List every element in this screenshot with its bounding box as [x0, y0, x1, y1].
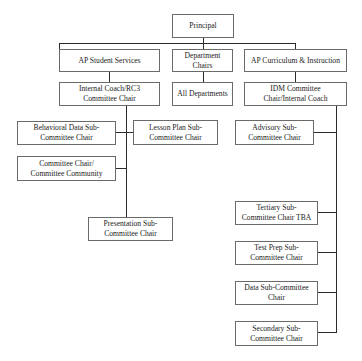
- node-ap-student-services: AP Student Services: [59, 49, 160, 72]
- node-test-prep: Test Prep Sub- Committee Chair: [235, 241, 318, 265]
- node-lesson-plan: Lesson Plan Sub- Committee Chair: [133, 120, 218, 145]
- node-internal-coach: Internal Coach/RC3 Committee Chair: [59, 82, 160, 106]
- connector-left-trunk: [126, 106, 127, 217]
- node-data-sub: Data Sub-Committee Chair: [235, 281, 318, 305]
- node-secondary: Secondary Sub- Committee Chair: [235, 321, 318, 346]
- node-committee-chair: Committee Chair/ Committee Community: [17, 156, 116, 181]
- connector-ap-curr-to-idm: [295, 72, 296, 82]
- node-ap-curriculum: AP Curriculum & Instruction: [244, 49, 347, 72]
- org-chart: Principal AP Student Services Department…: [0, 0, 362, 361]
- node-advisory: Advisory Sub- Committee Chair: [235, 120, 314, 145]
- connector-level1-bar: [59, 43, 296, 44]
- node-department-chairs: Department Chairs: [172, 49, 233, 72]
- node-behavioral-data: Behavioral Data Sub- Committee Chair: [17, 121, 116, 145]
- node-tertiary: Tertiary Sub- Committee Chair TBA: [235, 201, 318, 225]
- connector-right-trunk: [336, 106, 337, 333]
- connector-to-tertiary: [318, 212, 336, 213]
- node-all-departments: All Departments: [172, 82, 233, 106]
- connector-to-test-prep: [318, 252, 336, 253]
- connector-dept-to-all: [203, 72, 204, 82]
- node-presentation: Presentation Sub- Committee Chair: [88, 217, 173, 241]
- connector-to-behavioral: [116, 132, 133, 133]
- connector-to-secondary: [318, 332, 336, 333]
- node-principal: Principal: [172, 14, 234, 38]
- connector-to-committee-chair: [116, 168, 126, 169]
- connector-to-advisory: [314, 132, 336, 133]
- node-idm-committee: IDM Committee Chair/Internal Coach: [244, 82, 347, 106]
- connector-to-data-sub: [318, 292, 336, 293]
- connector-ap-student-to-internal: [109, 72, 110, 82]
